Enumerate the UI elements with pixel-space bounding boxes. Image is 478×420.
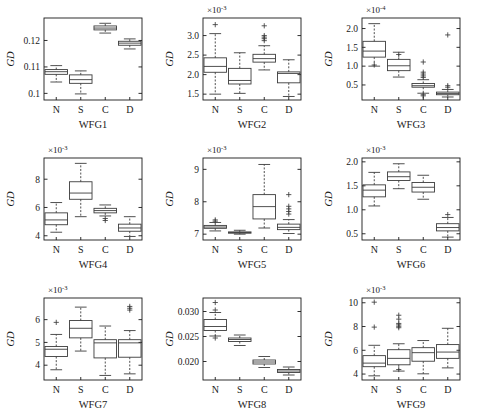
boxplot-c (412, 341, 435, 374)
subplot-wfg9: ×10-346810GDNSCDWFG9 (318, 280, 477, 420)
y-tick-label: 8 (194, 197, 199, 207)
x-tick-label-d: D (285, 244, 292, 255)
axis-exponent: ×10-3 (207, 144, 227, 156)
x-tick-label-n: N (371, 104, 378, 115)
box-iqr (118, 340, 141, 358)
y-tick-label: 8 (353, 322, 358, 332)
boxplot-n (45, 66, 68, 82)
y-axis-label: GD (323, 51, 334, 67)
axes-frame (362, 18, 460, 100)
axis-exponent: ×10-3 (207, 4, 227, 16)
boxplot-s (228, 53, 251, 94)
y-tick-label: 0.5 (346, 80, 358, 90)
y-tick-label: 0.025 (178, 332, 200, 342)
box-iqr (363, 356, 386, 367)
boxplot-d (277, 192, 300, 233)
box-iqr (387, 350, 410, 365)
boxplot-n (45, 320, 68, 370)
x-axis-label: WFG8 (238, 399, 267, 410)
boxplot-n (204, 22, 227, 94)
boxplot-d (118, 217, 141, 237)
subplot-wfg3: ×10-40.51.01.52.0GDNSCDWFG3 (318, 0, 477, 140)
boxplot-d (436, 32, 459, 97)
boxplot-n (204, 217, 227, 231)
y-tick-label: 1.5 (187, 89, 199, 99)
y-tick-label: 6 (353, 346, 358, 356)
y-tick-label: 2.0 (187, 70, 199, 80)
box-iqr (363, 41, 386, 57)
boxplot-d (118, 304, 141, 374)
x-tick-label-s: S (237, 384, 243, 395)
y-tick-label: 7 (194, 229, 199, 239)
boxplot-c (253, 164, 276, 228)
boxplot-n (45, 203, 68, 233)
box-iqr (363, 185, 386, 197)
subplot-wfg5: ×10-3789GDNSCDWFG5 (159, 140, 318, 280)
y-tick-label: 4 (35, 231, 40, 241)
x-axis-label: WFG2 (238, 119, 267, 130)
box-iqr (436, 345, 459, 359)
x-tick-label-n: N (212, 384, 219, 395)
x-tick-label-n: N (53, 244, 60, 255)
boxplot-d (436, 212, 459, 237)
axis-exponent: ×10-3 (366, 284, 386, 296)
boxplot-n (204, 300, 227, 341)
y-tick-label: 6 (35, 203, 40, 213)
axes-frame (44, 18, 142, 100)
x-tick-label-c: C (102, 384, 109, 395)
y-tick-label: 5 (35, 338, 40, 348)
y-tick-label: 9 (194, 165, 199, 175)
boxplot-c (412, 175, 435, 199)
box-iqr (45, 213, 68, 225)
boxplot-s (387, 164, 410, 189)
box-iqr (412, 348, 435, 362)
y-axis-label: GD (323, 331, 334, 347)
y-axis-label: GD (5, 331, 16, 347)
y-tick-label: 6 (35, 315, 40, 325)
x-tick-label-n: N (53, 384, 60, 395)
boxplot-figure-grid: 0.10.110.12GDNSCDWFG1×10-31.52.02.53.0GD… (0, 0, 478, 420)
x-tick-label-c: C (420, 104, 427, 115)
y-tick-label: 1.0 (346, 61, 358, 71)
axis-exponent: ×10-3 (366, 144, 386, 156)
boxplot-c (94, 205, 117, 223)
y-tick-label: 4 (35, 360, 40, 370)
box-iqr (204, 58, 227, 72)
boxplot-d (277, 60, 300, 97)
y-tick-label: 0.020 (178, 357, 200, 367)
boxplot-d (277, 367, 300, 375)
x-tick-label-d: D (126, 384, 133, 395)
x-axis-label: WFG9 (397, 399, 426, 410)
x-tick-label-n: N (212, 104, 219, 115)
x-tick-label-n: N (371, 384, 378, 395)
box-iqr (387, 59, 410, 70)
x-tick-label-c: C (261, 104, 268, 115)
x-tick-label-n: N (212, 244, 219, 255)
x-tick-label-s: S (78, 104, 84, 115)
y-axis-label: GD (323, 191, 334, 207)
x-tick-label-n: N (53, 104, 60, 115)
y-tick-label: 2.0 (346, 24, 358, 34)
box-iqr (69, 182, 92, 200)
y-tick-label: 1.5 (346, 181, 358, 191)
boxplot-s (387, 313, 410, 373)
x-axis-label: WFG4 (79, 259, 108, 270)
box-iqr (387, 172, 410, 181)
x-tick-label-s: S (237, 104, 243, 115)
boxplot-n (363, 24, 386, 68)
y-tick-label: 0.12 (23, 36, 40, 46)
subplot-wfg8: 0.0200.0250.030GDNSCDWFG8 (159, 280, 318, 420)
y-tick-label: 10 (349, 298, 359, 308)
x-tick-label-c: C (261, 384, 268, 395)
box-iqr (277, 224, 300, 230)
x-tick-label-d: D (444, 244, 451, 255)
x-tick-label-d: D (126, 244, 133, 255)
boxplot-c (253, 357, 276, 368)
x-tick-label-d: D (285, 104, 292, 115)
box-iqr (69, 321, 92, 338)
boxplot-c (412, 59, 435, 98)
y-tick-label: 2.0 (346, 157, 358, 167)
box-iqr (45, 347, 68, 357)
axis-exponent: ×10-4 (366, 4, 386, 16)
y-tick-label: 0.5 (346, 229, 358, 239)
